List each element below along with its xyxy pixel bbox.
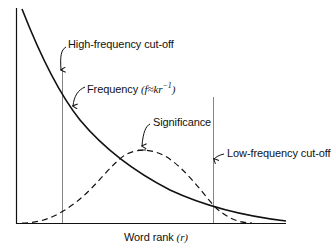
frequency-label: Frequency (f≈kr−1) xyxy=(87,81,175,95)
significance-arrow xyxy=(142,124,150,146)
frequency-formula-close: ) xyxy=(172,83,176,95)
high-frequency-cutoff-label: High-frequency cut-off xyxy=(68,38,174,50)
frequency-arrow xyxy=(73,87,85,106)
low-frequency-cutoff-label: Low-frequency cut-off xyxy=(227,147,330,159)
high-cutoff-arrow xyxy=(61,47,66,70)
frequency-exponent: −1 xyxy=(162,81,171,90)
x-axis-label: Word rank (r) xyxy=(124,231,188,243)
frequency-formula: (f≈kr xyxy=(141,83,162,95)
x-axis-label-text: Word rank xyxy=(124,231,177,243)
significance-curve xyxy=(22,150,252,223)
x-axis-variable: (r) xyxy=(177,231,188,243)
frequency-label-text: Frequency xyxy=(87,83,141,95)
low-cutoff-arrow xyxy=(214,154,224,159)
significance-label: Significance xyxy=(153,116,211,128)
